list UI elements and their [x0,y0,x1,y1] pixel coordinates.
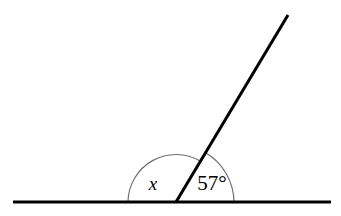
oblique-ray [176,15,288,202]
known-angle-label: 57° [197,171,226,195]
geometry-canvas: x 57° [0,0,341,216]
geometry-figure: x 57° [0,0,341,216]
unknown-angle-label: x [148,173,158,194]
